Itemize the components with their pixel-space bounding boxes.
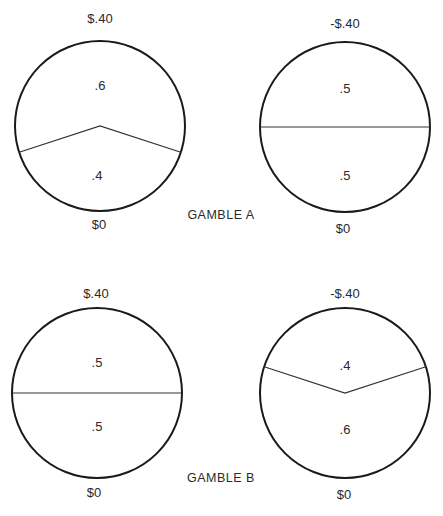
gamble-a-wheel-1: $.40 .6 .4 $0 xyxy=(15,11,185,232)
outcome-top-label: $.40 xyxy=(83,286,108,301)
outcome-top-label: $.40 xyxy=(87,11,112,26)
outcome-bottom-label: $0 xyxy=(337,487,351,502)
gamble-a-label: GAMBLE A xyxy=(187,208,254,222)
outcome-bottom-label: $0 xyxy=(336,221,350,236)
outcome-top-label: -$.40 xyxy=(330,16,360,31)
top-probability-label: .4 xyxy=(340,358,351,373)
gamble-b-wheel-1: $.40 .5 .5 $0 xyxy=(12,286,182,500)
gamble-b-wheel-2: -$.40 .4 .6 $0 xyxy=(260,286,430,502)
bottom-probability-label: .5 xyxy=(92,419,103,434)
outcome-bottom-label: $0 xyxy=(92,217,106,232)
outcome-bottom-label: $0 xyxy=(87,485,101,500)
bottom-probability-label: .5 xyxy=(340,168,351,183)
bottom-probability-label: .4 xyxy=(92,168,103,183)
gamble-diagram: $.40 .6 .4 $0 -$.40 .5 .5 $0 GAMBLE A $.… xyxy=(0,0,443,516)
top-probability-label: .5 xyxy=(92,355,103,370)
bottom-probability-label: .6 xyxy=(340,422,351,437)
gamble-b-label: GAMBLE B xyxy=(187,471,255,485)
outcome-top-label: -$.40 xyxy=(330,286,360,301)
wheel-divider xyxy=(19,126,181,152)
top-probability-label: .6 xyxy=(95,78,106,93)
gamble-a-wheel-2: -$.40 .5 .5 $0 xyxy=(260,16,430,236)
top-probability-label: .5 xyxy=(340,81,351,96)
